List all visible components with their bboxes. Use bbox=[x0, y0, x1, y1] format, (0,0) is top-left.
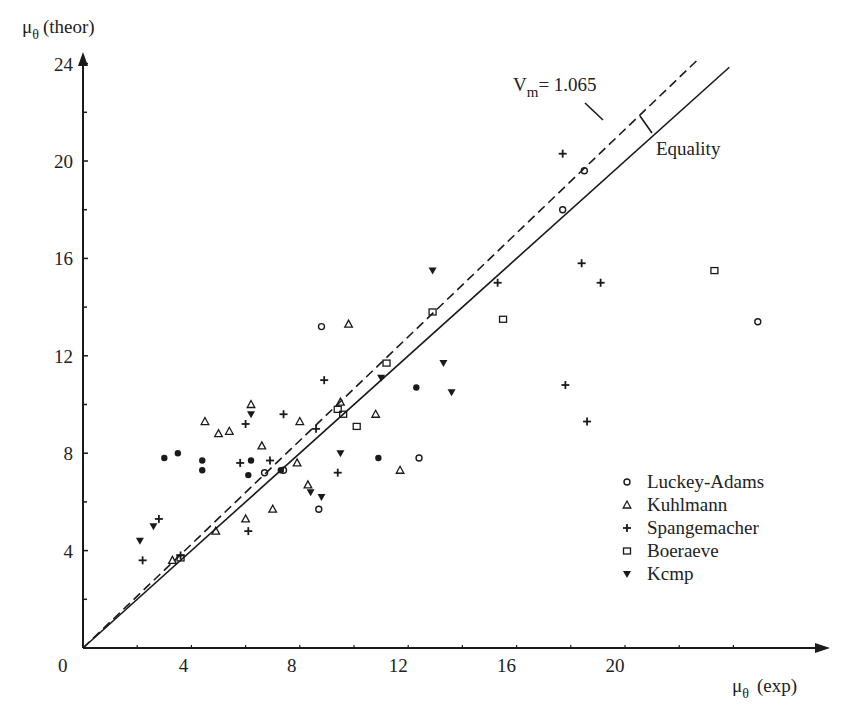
data-point-plus bbox=[242, 420, 250, 428]
data-point-filled-triangle-down bbox=[439, 360, 447, 367]
plus-marker-icon bbox=[623, 524, 631, 532]
x-axis-title: μθ(exp) bbox=[732, 675, 797, 701]
vm-leader-line bbox=[585, 103, 603, 120]
data-point-plus bbox=[597, 279, 605, 287]
data-point-filled-triangle-down bbox=[149, 523, 157, 530]
legend-item: Spangemacher bbox=[623, 517, 760, 538]
legend-item: Kcmp bbox=[623, 563, 693, 584]
y-tick-label: 12 bbox=[54, 346, 73, 367]
data-point-filled-circle bbox=[199, 467, 205, 473]
vm-label-value: = 1.065 bbox=[538, 74, 596, 95]
data-point-open-square bbox=[353, 423, 360, 429]
y-axis-title-rest: (theor) bbox=[43, 16, 95, 38]
data-point-plus bbox=[559, 150, 567, 158]
data-point-filled-circle bbox=[278, 467, 284, 473]
open-circle-marker-icon bbox=[624, 479, 630, 485]
data-point-open-circle bbox=[416, 455, 422, 461]
data-point-open-circle bbox=[318, 324, 324, 330]
y-tick-label: 4 bbox=[64, 541, 74, 562]
data-point-filled-triangle-down bbox=[336, 450, 344, 457]
data-point-plus bbox=[244, 527, 252, 535]
reference-lines bbox=[83, 59, 729, 648]
x-axis-title-mu: μ bbox=[732, 675, 742, 696]
x-tick-label: 16 bbox=[497, 655, 516, 676]
data-point-open-triangle bbox=[215, 430, 223, 437]
legend-item: Boeraeve bbox=[624, 540, 719, 561]
data-point-open-triangle bbox=[201, 418, 209, 425]
x-tick-label: 4 bbox=[179, 655, 189, 676]
data-point-plus bbox=[561, 381, 569, 389]
y-tick-label: 20 bbox=[54, 151, 73, 172]
data-point-filled-triangle-down bbox=[317, 494, 325, 501]
vm-label-sub: m bbox=[527, 84, 539, 100]
data-point-open-triangle bbox=[296, 418, 304, 425]
data-point-filled-circle bbox=[413, 384, 419, 390]
x-axis-title-theta: θ bbox=[742, 686, 749, 701]
data-point-filled-circle bbox=[248, 457, 254, 463]
data-point-filled-triangle-down bbox=[429, 268, 437, 275]
legend-label: Boeraeve bbox=[647, 540, 719, 561]
y-tick-labels: 4812162024 bbox=[54, 54, 74, 562]
data-point-open-square bbox=[711, 268, 718, 274]
x-axis-title-rest: (exp) bbox=[757, 675, 797, 697]
data-point-filled-circle bbox=[175, 450, 181, 456]
x-tick-label: 12 bbox=[389, 655, 408, 676]
equality-label: Equality bbox=[656, 138, 721, 159]
legend-label: Spangemacher bbox=[647, 517, 760, 538]
data-point-plus bbox=[312, 425, 320, 433]
data-point-open-triangle bbox=[242, 515, 250, 522]
data-point-filled-triangle-down bbox=[307, 489, 315, 496]
data-point-plus bbox=[583, 418, 591, 426]
legend-label: Luckey-Adams bbox=[647, 471, 764, 492]
data-point-open-square bbox=[383, 360, 390, 366]
open-square-marker-icon bbox=[624, 548, 631, 554]
data-point-plus bbox=[236, 459, 244, 467]
data-point-plus bbox=[280, 410, 288, 418]
data-point-open-triangle bbox=[269, 505, 277, 512]
data-point-open-triangle bbox=[293, 459, 301, 466]
data-point-filled-triangle-down bbox=[136, 538, 144, 545]
data-point-open-triangle bbox=[396, 466, 404, 473]
vm-label-v: V bbox=[513, 74, 527, 95]
data-point-filled-circle bbox=[245, 472, 251, 478]
data-point-open-triangle bbox=[226, 427, 234, 434]
svg-text:Vm= 1.065: Vm= 1.065 bbox=[513, 74, 597, 100]
y-axis-title: μθ(theor) bbox=[22, 16, 95, 42]
data-point-filled-circle bbox=[199, 457, 205, 463]
data-point-open-circle bbox=[755, 319, 761, 325]
y-tick-label: 8 bbox=[64, 443, 74, 464]
origin-label: 0 bbox=[58, 655, 68, 676]
open-triangle-marker-icon bbox=[623, 501, 631, 508]
data-point-plus bbox=[266, 457, 274, 465]
legend: Luckey-AdamsKuhlmannSpangemacherBoeraeve… bbox=[623, 471, 764, 584]
vm-line bbox=[83, 59, 699, 648]
x-axis-arrow-icon bbox=[815, 643, 830, 653]
x-tick-label: 20 bbox=[606, 655, 625, 676]
data-point-plus bbox=[155, 515, 163, 523]
data-point-open-triangle bbox=[258, 442, 266, 449]
legend-label: Kcmp bbox=[647, 563, 693, 584]
x-tick-labels: 48121620 bbox=[179, 655, 625, 676]
data-point-open-triangle bbox=[304, 481, 312, 488]
y-axis-title-theta: θ bbox=[32, 27, 39, 42]
data-point-filled-circle bbox=[161, 455, 167, 461]
data-point-plus bbox=[320, 376, 328, 384]
data-point-open-circle bbox=[316, 506, 322, 512]
data-point-plus bbox=[494, 279, 502, 287]
equality-leader-line bbox=[640, 116, 652, 133]
data-point-open-circle bbox=[560, 207, 566, 213]
y-tick-label: 16 bbox=[54, 248, 73, 269]
data-point-open-triangle bbox=[247, 401, 255, 408]
data-point-open-square bbox=[500, 316, 507, 322]
vm-annotation: Vm= 1.065 bbox=[513, 74, 603, 120]
data-point-open-triangle bbox=[345, 320, 353, 327]
data-point-plus bbox=[334, 469, 342, 477]
y-axis-title-mu: μ bbox=[22, 16, 32, 37]
data-point-filled-triangle-down bbox=[448, 389, 456, 396]
scatter-chart: 4812162024 48121620 0 μθ(theor) μθ(exp) … bbox=[0, 0, 849, 721]
legend-item: Luckey-Adams bbox=[624, 471, 764, 492]
data-point-plus bbox=[139, 556, 147, 564]
data-point-plus bbox=[578, 259, 586, 267]
filled-triangle-down-marker-icon bbox=[623, 571, 631, 578]
x-tick-label: 8 bbox=[287, 655, 297, 676]
